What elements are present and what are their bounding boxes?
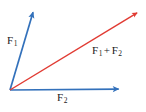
vector-label-resultant-first-symbol: F — [92, 44, 98, 56]
vector-label-resultant-first-subscript: 1 — [99, 49, 103, 58]
vector-label-f2-subscript: 2 — [64, 96, 68, 105]
vector-label-f2-symbol: F — [57, 91, 63, 103]
vector-canvas — [0, 0, 146, 112]
vector-f2-arrow — [10, 89, 119, 90]
vector-label-f1-subscript: 1 — [14, 39, 18, 48]
vector-label-f1-symbol: F — [7, 34, 13, 46]
vector-label-f1: F1 — [7, 35, 17, 46]
vector-label-resultant-operator: + — [102, 44, 111, 56]
vector-label-resultant-second-subscript: 2 — [118, 49, 122, 58]
vector-label-f2: F2 — [57, 92, 67, 103]
vector-addition-figure: F1 F1+F2 F2 — [0, 0, 146, 112]
vector-label-resultant: F1+F2 — [92, 45, 122, 56]
